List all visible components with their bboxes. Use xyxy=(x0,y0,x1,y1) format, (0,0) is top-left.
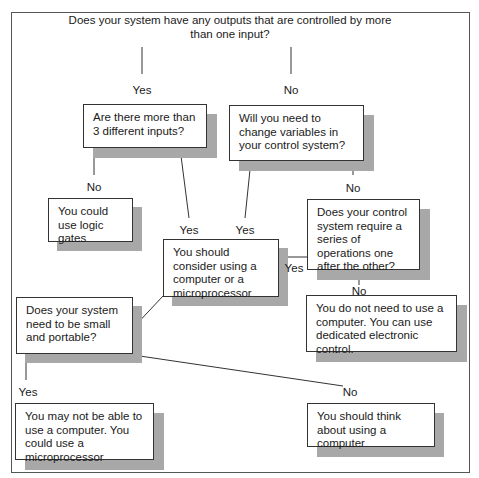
node-small-portable: Does your system need to be small and po… xyxy=(16,297,133,354)
label-no: No xyxy=(284,84,299,97)
node-logic-gates: You could use logic gates xyxy=(48,198,133,242)
node-consider-computer: You should consider using a computer or … xyxy=(163,239,279,297)
node-use-microprocessor: You may not be able to use a computer. Y… xyxy=(15,403,154,460)
node-series-operations: Does your control system require a serie… xyxy=(307,199,420,270)
label-yes: Yes xyxy=(180,224,199,237)
node-change-variables: Will you need to change variables in you… xyxy=(229,105,364,161)
root-question: Does your system have any outputs that a… xyxy=(60,14,400,41)
node-think-computer: You should think about using a computer xyxy=(307,403,435,447)
label-no: No xyxy=(87,181,102,194)
node-more-inputs: Are there more than 3 different inputs? xyxy=(83,104,207,148)
label-yes: Yes xyxy=(285,262,304,275)
label-no: No xyxy=(343,386,358,399)
label-yes: Yes xyxy=(19,386,38,399)
label-yes: Yes xyxy=(236,224,255,237)
node-dedicated-control: You do not need to use a computer. You c… xyxy=(306,295,457,352)
label-no: No xyxy=(346,182,361,195)
label-yes: Yes xyxy=(133,84,152,97)
